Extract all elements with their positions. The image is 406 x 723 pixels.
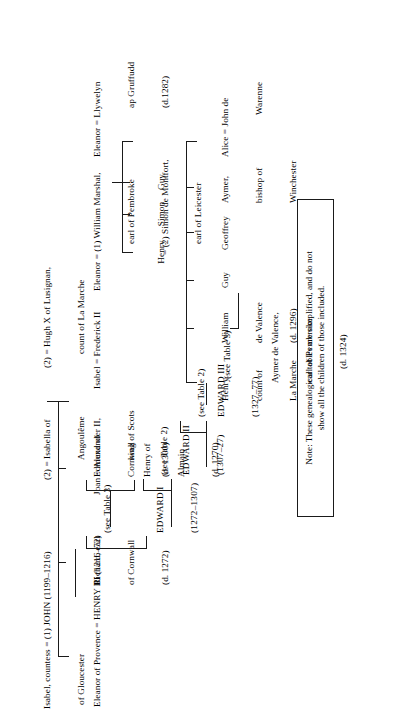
hugh-lusignan-line-1: (2) = Hugh X of Lusignan, [42, 267, 53, 368]
eleanor-llywelyn-line-1: Eleanor = Llywelyn [92, 62, 103, 157]
edmund-cornwall-line-2: Cornwall [126, 435, 137, 477]
node-see-table-3-a: (see Table 3) [80, 485, 136, 533]
connector-edward-ii-stub [171, 479, 172, 491]
montfort-simon-label: Simon [156, 195, 167, 233]
eleanor-llywelyn-line-3: (d.1282) [160, 62, 171, 108]
connector-lusignan-bar-aymer [186, 187, 194, 188]
node-lusignan-guy: Guy [198, 263, 254, 297]
montfort-guy-label: Guy [156, 165, 167, 199]
connector-edward-iii-stub [206, 421, 207, 433]
note-line-2: show all the children of those included. [315, 207, 327, 509]
lusignan-guy-label: Guy [220, 263, 231, 297]
lusignan-geoffrey-label: Geoffrey [220, 209, 231, 257]
genealogy-page: Isabel, countess = (1) JOHN (1199–1216) … [0, 0, 406, 723]
alice-warenne-line-1: Alice = John de [220, 82, 231, 157]
isabella-angouleme-line-1: (2) = Isabella of [42, 416, 53, 480]
connector-richard-down [110, 491, 111, 527]
connector-montfort-bar-drop-1 [122, 214, 130, 215]
william-valence-line-1: William [220, 302, 231, 343]
node-see-table-2-a: (see Table 2) [137, 427, 193, 475]
richard-cornwall-line-1: Richard, earl [92, 536, 103, 585]
node-lusignan-geoffrey: Geoffrey [198, 209, 254, 257]
connector-montfort-children-bar [122, 142, 123, 253]
richard-cornwall-line-2: of Cornwall [126, 536, 137, 585]
aymer-winchester-line-3: Winchester [288, 161, 299, 203]
connector-table2b-stub [180, 421, 181, 433]
aymer-winchester-line-1: Aymer, [220, 161, 231, 203]
connector-lusignan-bar-right [186, 141, 197, 142]
connector-richard-children-vertical [86, 490, 134, 491]
montfort-henry-label: Henry [156, 233, 167, 271]
aymer-valence-line-1: Aymer de Valence, [270, 312, 281, 383]
alice-warenne-line-2: Warenne [254, 82, 265, 115]
connector-henry-almain-stub [134, 480, 135, 491]
node-richard-earl-of-cornwall: Richard, earl of Cornwall (d. 1272) [70, 536, 193, 585]
see-table-3-a-label: (see Table 3) [102, 485, 113, 533]
connector-edward-i-to-children [171, 491, 172, 527]
node-montfort-guy: Guy [134, 165, 190, 199]
connector-edward-i-children-vertical [143, 490, 171, 491]
connector-lusignan-bar-william [186, 328, 194, 329]
connector-lusignan-bar-guy [186, 280, 194, 281]
edmund-cornwall-line-1: Edmund of [92, 435, 103, 477]
edward-ii-line-2: (1307–27) [215, 425, 226, 475]
connector-william-to-aymer-valence [238, 293, 239, 329]
connector-edward-ii-to-children [206, 433, 207, 467]
connector-eleanor-to-montfort-bar [112, 182, 122, 183]
connector-montfort-bar-drop-2 [122, 182, 130, 183]
aymer-valence-line-3: (d. 1324) [338, 312, 349, 369]
connector-henry-iii-children-vertical [86, 548, 146, 549]
isabel-gloucester-line-1: Isabel, countess = (1) JOHN (1199–1216) [42, 551, 53, 709]
connector-john-bar-left-drop [58, 656, 69, 657]
eleanor-marshal-line-1: Eleanor = (1) William Marshal, [92, 159, 103, 291]
eleanor-llywelyn-line-2: ap Gruffudd [126, 62, 137, 108]
see-table-2-a-label: (see Table 2) [159, 427, 170, 475]
connector-edward-i-stub [146, 536, 147, 549]
genealogy-canvas: Isabel, countess = (1) JOHN (1199–1216) … [0, 0, 406, 723]
note-box: Note: These genealogical tables are simp… [297, 199, 334, 517]
node-aymer-bishop-of-winchester: Aymer, bishop of Winchester [198, 161, 321, 203]
edward-i-line-2: (1272–1307) [189, 483, 200, 533]
connector-henry-iii-descent [75, 549, 76, 597]
connector-edward-ii-children-vertical [180, 432, 206, 433]
connector-valence-drop [230, 328, 238, 329]
node-montfort-simon: Simon [134, 195, 190, 233]
node-isabel-frederick-ii: Isabel = Frederick II [70, 312, 126, 389]
connector-john-children-bar [58, 402, 59, 657]
isabel-frederick-label: Isabel = Frederick II [92, 312, 103, 389]
lusignan-henry-line-1: Henry, [220, 360, 231, 401]
connector-montfort-bar-drop-left [122, 252, 133, 253]
connector-table2a-stub [143, 479, 144, 491]
node-montfort-henry: Henry [134, 233, 190, 271]
node-eleanor-llywelyn: Eleanor = Llywelyn ap Gruffudd (d.1282) [70, 62, 193, 157]
connector-john-bar-joan-drop [58, 468, 66, 469]
connector-table3a-stub [86, 536, 87, 549]
node-alice-john-de-warenne: Alice = John de Warenne [198, 82, 288, 157]
connector-isabella-to-lusignan [47, 401, 58, 402]
richard-cornwall-line-3: (d. 1272) [160, 536, 171, 585]
connector-john-bar-right-drop [58, 401, 69, 402]
note-line-1: Note: These genealogical tables are simp… [303, 207, 315, 509]
connector-lusignan-children-bar [186, 142, 187, 383]
connector-edmund-cornwall-stub [86, 480, 87, 491]
connector-lusignan-bar-geoffrey [186, 232, 194, 233]
aymer-winchester-line-2: bishop of [254, 161, 265, 203]
connector-lusignan-bar-left [186, 382, 197, 383]
connector-john-bar-richard-drop [58, 562, 66, 563]
